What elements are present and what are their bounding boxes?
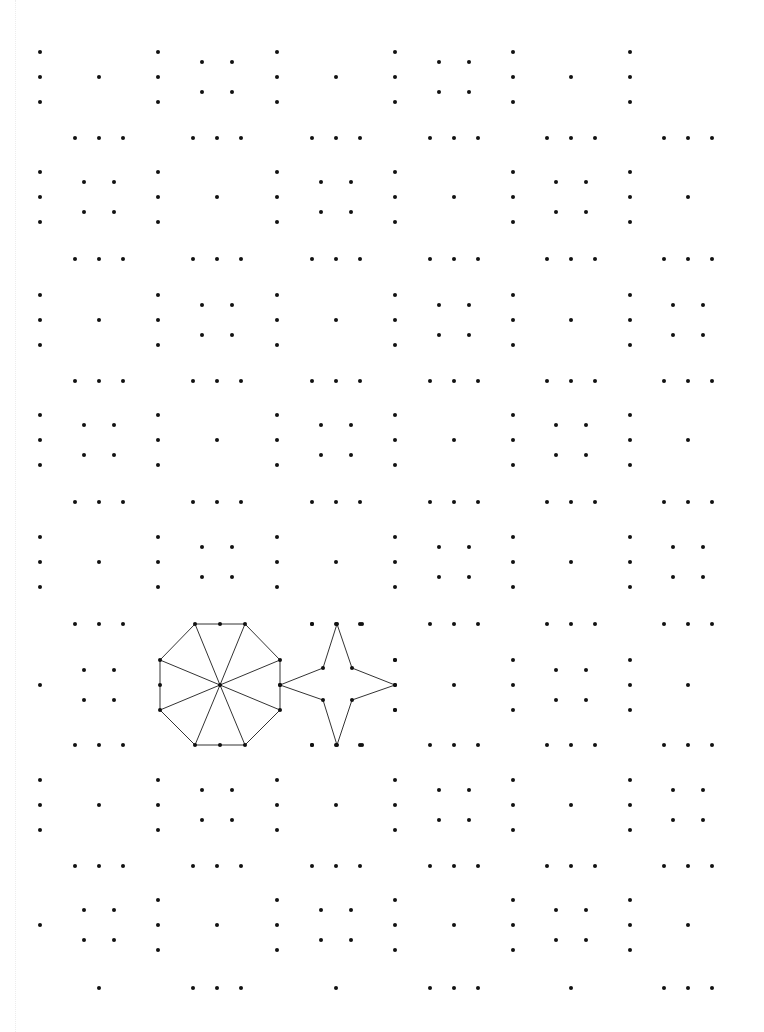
cell-center-dot (569, 75, 573, 79)
column-dot (156, 318, 160, 322)
column-dot (156, 463, 160, 467)
column-dot (393, 560, 397, 564)
row-dot (73, 136, 77, 140)
column-dot (38, 560, 42, 564)
column-dot (511, 923, 515, 927)
row-dot (452, 864, 456, 868)
row-dot (710, 500, 714, 504)
row-dot (686, 379, 690, 383)
row-dot (310, 379, 314, 383)
column-dot (628, 560, 632, 564)
column-dot (511, 898, 515, 902)
row-dot (686, 622, 690, 626)
cell-center-dot (452, 683, 456, 687)
shape-edge (280, 685, 323, 700)
row-dot (121, 864, 125, 868)
row-dot (428, 500, 432, 504)
row-dot (97, 257, 101, 261)
column-dot (628, 683, 632, 687)
cell-square-dot (82, 210, 86, 214)
row-dot (358, 379, 362, 383)
row-dot (476, 379, 480, 383)
row-dot (662, 743, 666, 747)
row-dot (239, 500, 243, 504)
cell-square-dot (319, 180, 323, 184)
cell-square-dot (467, 60, 471, 64)
column-dot (511, 708, 515, 712)
cell-square-dot (230, 303, 234, 307)
column-dot (275, 50, 279, 54)
column-dot (275, 585, 279, 589)
column-dot (511, 318, 515, 322)
row-dot (97, 622, 101, 626)
grid-dot (393, 658, 397, 662)
row-dot (545, 743, 549, 747)
cell-center-dot (215, 923, 219, 927)
cell-square-dot (584, 698, 588, 702)
cell-square-dot (554, 908, 558, 912)
cell-square-dot (467, 818, 471, 822)
column-dot (628, 75, 632, 79)
column-dot (393, 898, 397, 902)
cell-square-dot (230, 818, 234, 822)
cell-square-dot (230, 575, 234, 579)
column-dot (275, 170, 279, 174)
row-dot (97, 379, 101, 383)
row-dot (476, 500, 480, 504)
cell-square-dot (701, 818, 705, 822)
cell-square-dot (319, 938, 323, 942)
row-dot (310, 500, 314, 504)
row-dot (358, 500, 362, 504)
cell-square-dot (437, 575, 441, 579)
dot-grid-worksheet (0, 0, 764, 1032)
column-dot (511, 948, 515, 952)
row-dot (452, 379, 456, 383)
row-dot (334, 986, 338, 990)
column-dot (156, 438, 160, 442)
row-dot (73, 379, 77, 383)
row-dot (73, 622, 77, 626)
row-dot (476, 986, 480, 990)
row-dot (593, 379, 597, 383)
column-dot (275, 75, 279, 79)
row-dot (239, 136, 243, 140)
row-dot (569, 986, 573, 990)
column-dot (393, 293, 397, 297)
row-dot (191, 257, 195, 261)
column-dot (393, 75, 397, 79)
cell-center-dot (215, 195, 219, 199)
cell-square-dot (230, 60, 234, 64)
grid-dot (310, 743, 314, 747)
row-dot (710, 864, 714, 868)
cell-square-dot (82, 423, 86, 427)
column-dot (628, 778, 632, 782)
cell-square-dot (112, 210, 116, 214)
row-dot (686, 500, 690, 504)
shape-vertex-dot (158, 708, 162, 712)
cell-square-dot (584, 668, 588, 672)
cell-square-dot (437, 303, 441, 307)
column-dot (38, 343, 42, 347)
row-dot (239, 986, 243, 990)
column-dot (628, 948, 632, 952)
cell-center-dot (452, 438, 456, 442)
cell-center-dot (686, 683, 690, 687)
column-dot (156, 803, 160, 807)
column-dot (275, 898, 279, 902)
shape-edge (160, 624, 195, 660)
shape-vertex-dot (278, 683, 282, 687)
column-dot (156, 828, 160, 832)
cell-center-dot (97, 75, 101, 79)
cell-square-dot (349, 453, 353, 457)
cell-square-dot (671, 333, 675, 337)
row-dot (428, 622, 432, 626)
cell-center-dot (569, 318, 573, 322)
row-dot (428, 257, 432, 261)
cell-square-dot (467, 333, 471, 337)
cell-square-dot (200, 333, 204, 337)
shape-edge (352, 668, 395, 685)
column-dot (511, 560, 515, 564)
column-dot (511, 585, 515, 589)
grid-dots (38, 50, 714, 990)
column-dot (628, 220, 632, 224)
